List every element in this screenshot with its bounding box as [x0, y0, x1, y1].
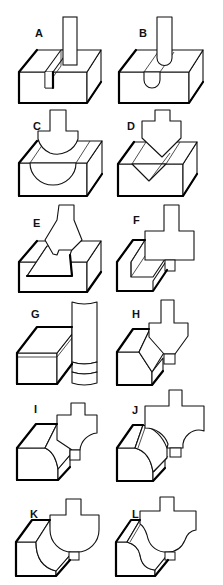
panel-label-i: I [34, 403, 37, 415]
panel-e: E [19, 205, 101, 292]
panel-f: F [117, 205, 194, 291]
panel-label-c: C [33, 120, 41, 132]
panel-a: A [19, 17, 101, 103]
router-bit-diagram: A B C [0, 0, 223, 585]
panel-l: L [116, 497, 196, 576]
panel-label-a: A [35, 27, 43, 39]
panel-b: B [119, 17, 203, 103]
panel-label-e: E [33, 217, 40, 229]
panel-label-b: B [139, 27, 147, 39]
panel-label-l: L [132, 508, 139, 520]
panel-label-f: F [133, 214, 140, 226]
panel-label-k: K [30, 508, 38, 520]
panel-h: H [117, 300, 188, 385]
panel-label-g: G [31, 308, 40, 320]
panel-j: J [117, 390, 204, 481]
panel-c: C [19, 110, 102, 196]
panel-label-j: J [132, 404, 138, 416]
panel-d: D [118, 110, 197, 196]
panel-label-d: D [127, 120, 135, 132]
panel-i: I [17, 403, 97, 480]
panel-g: G [17, 302, 97, 385]
panel-k: K [16, 499, 99, 576]
panel-label-h: H [132, 308, 140, 320]
